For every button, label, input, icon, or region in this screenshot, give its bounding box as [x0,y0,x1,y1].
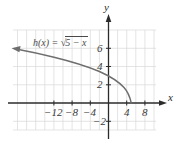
graph-figure: h(x) = √5 − x x y 6 4 2 −2 −12 −8 −4 4 8 [0,0,179,146]
x-tick-label-neg4: −4 [83,107,96,118]
y-tick-label-6: 6 [97,43,103,54]
x-axis [8,100,167,106]
x-tick-label-4: 4 [124,107,130,118]
x-tick-label-8: 8 [142,107,148,118]
function-prefix-text: h(x) = [33,37,61,48]
x-axis-label: x [168,92,173,103]
y-tick-label-2: 2 [97,79,103,90]
x-tick-label-neg12: −12 [44,107,62,118]
y-tick-label-4: 4 [97,61,103,72]
function-curve [12,46,132,103]
y-axis-label: y [104,2,109,13]
radicand-text: 5 − x [65,36,87,48]
plot-canvas [0,0,179,146]
x-tick-label-neg8: −8 [65,107,78,118]
function-annotation: h(x) = √5 − x [33,38,88,48]
